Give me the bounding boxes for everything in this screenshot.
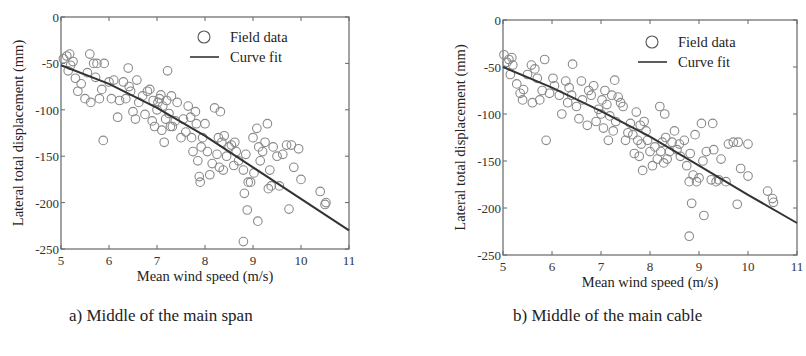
- data-point: [113, 113, 122, 122]
- data-point: [577, 77, 586, 86]
- data-point: [197, 143, 206, 152]
- data-point: [656, 102, 665, 111]
- data-point: [98, 85, 107, 94]
- x-tick-label: 6: [106, 253, 113, 268]
- data-point: [734, 138, 743, 147]
- y-tick-label: -250: [35, 242, 59, 257]
- data-point: [278, 150, 287, 159]
- data-point: [540, 55, 549, 64]
- data-point: [273, 152, 282, 161]
- x-tick-label: 10: [295, 253, 308, 268]
- scatter-chart-main-span: 5678910110-50-100-150-200-250Mean wind s…: [0, 0, 403, 356]
- data-point: [297, 175, 306, 184]
- data-point: [99, 136, 108, 145]
- caption-main-span: a) Middle of the main span: [69, 306, 253, 326]
- data-point: [107, 94, 116, 103]
- data-point: [192, 119, 201, 128]
- data-point: [687, 199, 696, 208]
- y-axis-label: Lateral total displacement (mm): [10, 40, 27, 227]
- data-point: [685, 232, 694, 241]
- legend-circle-icon: [198, 31, 210, 43]
- y-tick-label: -100: [35, 103, 59, 118]
- data-point: [230, 161, 239, 170]
- y-tick-label: -50: [484, 60, 501, 75]
- y-tick-label: -150: [35, 149, 59, 164]
- data-point: [119, 78, 128, 87]
- data-point: [724, 140, 733, 149]
- x-tick-label: 7: [154, 253, 161, 268]
- data-point: [256, 157, 265, 166]
- data-point: [635, 152, 644, 161]
- y-axis-ticks: 0-50-100-150-200-250: [477, 13, 797, 263]
- data-point: [583, 121, 592, 130]
- data-point: [201, 119, 210, 128]
- y-tick-label: -150: [477, 154, 501, 169]
- data-point: [610, 76, 619, 85]
- legend-circle-icon: [646, 36, 658, 48]
- data-point: [239, 166, 248, 175]
- data-point: [691, 130, 700, 139]
- data-point: [213, 150, 222, 159]
- x-tick-label: 11: [791, 259, 804, 274]
- data-point: [646, 147, 655, 156]
- legend-label-field-data: Field data: [678, 34, 736, 50]
- data-point: [568, 60, 577, 69]
- data-point: [603, 100, 612, 109]
- data-point: [133, 76, 142, 85]
- x-axis-label: Mean wind speed (m/s): [582, 274, 719, 291]
- chart-panel-a: 5678910110-50-100-150-200-250Mean wind s…: [0, 0, 403, 356]
- y-tick-label: 0: [53, 10, 60, 25]
- data-point: [141, 110, 150, 119]
- x-tick-label: 10: [742, 259, 755, 274]
- data-point: [638, 166, 647, 175]
- data-point: [545, 89, 554, 98]
- legend-label-curve-fit: Curve fit: [230, 49, 282, 65]
- data-point: [632, 108, 641, 117]
- scatter-chart-main-cable: 5678910110-50-100-150-200-250Mean wind s…: [403, 0, 806, 356]
- y-tick-label: -250: [477, 248, 501, 263]
- data-point: [629, 130, 638, 139]
- data-point: [115, 96, 124, 105]
- data-point: [124, 64, 133, 73]
- data-point: [269, 143, 278, 152]
- data-point: [261, 138, 270, 147]
- data-point: [243, 206, 252, 215]
- data-point: [148, 117, 157, 126]
- data-point: [158, 126, 167, 135]
- data-point: [242, 150, 251, 159]
- data-point: [744, 140, 753, 149]
- legend-label-field-data: Field data: [230, 29, 288, 45]
- x-axis-ticks: 567891011: [58, 17, 356, 268]
- data-point: [143, 87, 152, 96]
- data-point: [206, 170, 215, 179]
- data-point: [599, 124, 608, 133]
- data-point: [131, 115, 140, 124]
- data-point: [736, 164, 745, 173]
- y-tick-label: -100: [477, 107, 501, 122]
- data-point: [222, 152, 231, 161]
- data-point: [253, 124, 262, 133]
- data-point: [592, 117, 601, 126]
- data-point: [598, 96, 607, 105]
- data-point: [266, 166, 275, 175]
- data-point: [196, 178, 205, 187]
- data-point: [700, 211, 709, 220]
- data-point: [604, 136, 613, 145]
- data-point: [166, 122, 175, 131]
- data-point: [294, 144, 303, 153]
- data-point: [163, 67, 172, 76]
- data-point: [708, 119, 717, 128]
- data-point: [189, 147, 198, 156]
- data-point: [670, 127, 679, 136]
- data-point: [194, 157, 203, 166]
- x-tick-label: 7: [598, 259, 605, 274]
- data-point: [717, 155, 726, 164]
- data-point: [575, 114, 584, 123]
- y-tick-label: -200: [477, 201, 501, 216]
- data-point: [660, 110, 669, 119]
- data-point: [95, 94, 104, 103]
- legend: Field dataCurve fit: [190, 29, 288, 65]
- x-tick-label: 11: [343, 253, 356, 268]
- data-point: [239, 237, 248, 246]
- data-point: [656, 147, 665, 156]
